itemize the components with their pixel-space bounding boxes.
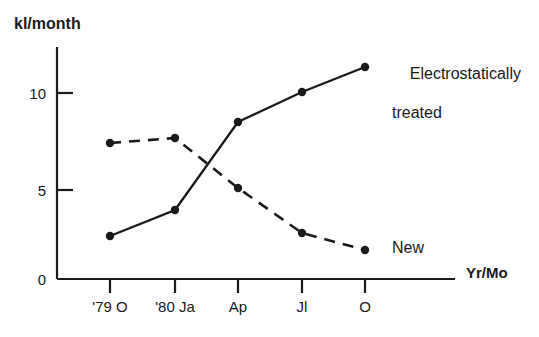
y-tick-label-10: 10 — [12, 86, 46, 101]
x-tick-label-o: O — [320, 299, 410, 314]
data-point — [361, 246, 369, 254]
data-point — [298, 88, 306, 96]
series-electrostatically-treated — [106, 63, 369, 240]
series-label-electro-line1: Electrostatically — [410, 65, 521, 82]
data-point — [298, 229, 306, 237]
series-line-dashed — [110, 138, 365, 250]
series-label-new: New — [392, 240, 424, 256]
y-axis-title: kl/month — [14, 16, 81, 32]
data-point — [106, 139, 114, 147]
x-axis-ticks — [110, 279, 365, 293]
y-axis-ticks — [57, 93, 73, 190]
series-label-electro-line2: treated — [392, 105, 521, 121]
data-point — [234, 184, 242, 192]
x-axis-title: Yr/Mo — [466, 265, 508, 280]
data-point — [361, 63, 369, 71]
data-point — [106, 232, 114, 240]
data-point — [171, 206, 179, 214]
chart-container: kl/month Yr/Mo 10 5 0 '79 O '80 Ja Ap Jl… — [0, 0, 539, 337]
data-point — [234, 118, 242, 126]
y-tick-label-0: 0 — [12, 272, 46, 287]
series-line-solid — [110, 67, 365, 236]
series-new — [106, 134, 369, 254]
series-label-electrostatically-treated: Electrostatically treated — [392, 50, 521, 153]
y-tick-label-5: 5 — [12, 183, 46, 198]
data-point — [171, 134, 179, 142]
